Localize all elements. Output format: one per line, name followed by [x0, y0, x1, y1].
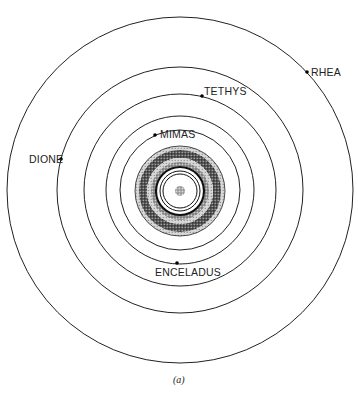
- moon-dot-rhea: [305, 70, 309, 74]
- moon-label-enceladus: ENCELADUS: [155, 267, 221, 278]
- ring-system: [135, 146, 225, 236]
- saturn-orbit-diagram: [0, 0, 358, 398]
- planet-saturn: [175, 186, 185, 196]
- moon-dot-enceladus: [175, 261, 179, 265]
- moon-dot-mimas: [153, 133, 157, 137]
- moon-label-mimas: MIMAS: [160, 129, 195, 140]
- moon-label-tethys: TETHYS: [204, 86, 247, 97]
- figure-caption: (a): [173, 374, 185, 385]
- moon-label-dione: DIONE: [29, 154, 63, 165]
- moon-label-rhea: RHEA: [311, 67, 341, 78]
